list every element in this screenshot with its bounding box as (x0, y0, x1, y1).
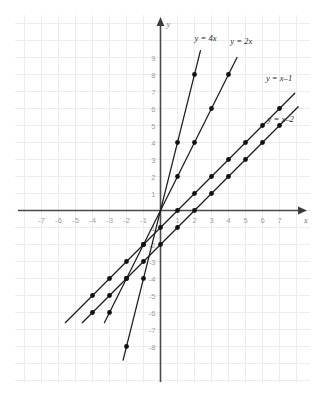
y-tick-label: -8 (149, 343, 156, 352)
data-point (141, 242, 146, 247)
graph-figure: -7-6-5-4-3-2-11234567987654321-1-2-3-4-5… (0, 0, 323, 416)
x-tick-label: -3 (106, 216, 113, 225)
x-axis-name: x (303, 216, 308, 225)
data-point (124, 344, 129, 349)
x-tick-label: -2 (123, 216, 130, 225)
y-axis-arrow-icon (157, 17, 165, 26)
x-tick-label: 1 (175, 216, 179, 225)
curve-label: y = x–1 (265, 73, 292, 83)
data-point (192, 72, 197, 77)
y-tick-label: 3 (151, 156, 155, 165)
data-point (192, 191, 197, 196)
function-line (104, 58, 237, 323)
data-point (141, 276, 146, 281)
data-point (175, 140, 180, 145)
data-point (107, 276, 112, 281)
data-point (192, 208, 197, 213)
data-point (226, 157, 231, 162)
data-point (107, 293, 112, 298)
x-tick-label: 4 (226, 216, 230, 225)
y-tick-label: -5 (149, 292, 156, 301)
function-line (82, 107, 298, 323)
function-lines (65, 51, 298, 360)
x-tick-label: 5 (243, 216, 247, 225)
data-point (243, 157, 248, 162)
x-tick-label: 6 (260, 216, 264, 225)
y-tick-label: 2 (151, 173, 155, 182)
y-tick-label: 9 (151, 54, 155, 63)
data-point (141, 259, 146, 264)
y-tick-label: 4 (151, 139, 155, 148)
x-axis-arrow-icon (298, 207, 307, 215)
x-tick-label: 7 (277, 216, 281, 225)
data-point (175, 208, 180, 213)
data-point (260, 123, 265, 128)
y-tick-label: 7 (151, 88, 155, 97)
data-point (158, 225, 163, 230)
data-point (175, 225, 180, 230)
data-point (175, 174, 180, 179)
data-point (107, 310, 112, 315)
y-tick-label: -4 (149, 275, 156, 284)
y-tick-label: -3 (149, 258, 156, 267)
data-point (226, 174, 231, 179)
y-tick-label: -7 (149, 326, 156, 335)
x-tick-label: -6 (55, 216, 62, 225)
y-tick-label: 5 (151, 122, 155, 131)
function-line (65, 93, 294, 323)
data-point (277, 106, 282, 111)
coordinate-plane-svg: -7-6-5-4-3-2-11234567987654321-1-2-3-4-5… (0, 0, 323, 416)
data-point (209, 174, 214, 179)
x-tick-label: 3 (209, 216, 213, 225)
curve-label: y = 2x (229, 36, 252, 46)
x-tick-label: -7 (38, 216, 45, 225)
data-point (226, 72, 231, 77)
data-point (158, 242, 163, 247)
data-point (192, 140, 197, 145)
data-point (90, 310, 95, 315)
y-tick-label: 8 (151, 71, 155, 80)
data-point (209, 106, 214, 111)
x-tick-label: -5 (72, 216, 79, 225)
curve-label: y = x–2 (267, 114, 295, 124)
y-tick-label: 6 (151, 105, 155, 114)
curve-label: y = 4x (194, 33, 217, 43)
data-point (124, 259, 129, 264)
function-line (123, 51, 200, 360)
data-point (124, 276, 129, 281)
x-tick-label: -1 (140, 216, 147, 225)
data-point (243, 140, 248, 145)
y-tick-label: 1 (151, 190, 155, 199)
grid-lines (15, 15, 310, 383)
data-point (90, 293, 95, 298)
y-axis-name: y (166, 20, 171, 29)
x-tick-label: 2 (192, 216, 196, 225)
data-point (260, 140, 265, 145)
data-point (209, 191, 214, 196)
axes (18, 17, 307, 382)
x-tick-label: -4 (89, 216, 96, 225)
y-tick-label: -6 (149, 309, 156, 318)
